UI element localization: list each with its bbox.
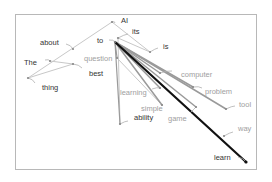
- label-computer: computer: [181, 70, 213, 79]
- label-learning: learning: [120, 88, 147, 97]
- label-The: The: [24, 58, 37, 67]
- node-thing[interactable]: [27, 77, 29, 79]
- label-way: way: [237, 124, 252, 133]
- label-its: its: [132, 27, 140, 36]
- node-learn[interactable]: [244, 160, 247, 163]
- word-graph: AIitsisabouttoquestionThebestthingcomput…: [0, 0, 272, 182]
- label-is: is: [163, 42, 169, 51]
- node-problem[interactable]: [192, 86, 194, 88]
- connector-problem: [193, 87, 202, 88]
- node-The[interactable]: [49, 60, 51, 62]
- connector-best: [73, 64, 82, 68]
- node-computer[interactable]: [159, 72, 161, 74]
- label-AI: AI: [121, 16, 128, 25]
- label-best: best: [89, 69, 104, 78]
- node-about[interactable]: [72, 48, 74, 50]
- edge-to-learn: [115, 42, 246, 162]
- node-ability[interactable]: [119, 123, 121, 125]
- node-learning[interactable]: [159, 87, 161, 89]
- connector-way: [224, 132, 233, 136]
- connector-is: [150, 48, 158, 52]
- node-question[interactable]: [116, 57, 118, 59]
- node-its[interactable]: [117, 37, 119, 39]
- label-tool: tool: [239, 100, 251, 109]
- label-simple: simple: [141, 104, 163, 113]
- connector-thing: [28, 78, 35, 83]
- label-learn: learn: [214, 153, 231, 162]
- label-to: to: [97, 36, 103, 45]
- connector-learning: [152, 88, 160, 89]
- connector-tool: [226, 106, 235, 109]
- node-tool[interactable]: [225, 108, 227, 110]
- label-about: about: [40, 38, 60, 47]
- node-best[interactable]: [72, 63, 74, 65]
- label-game: game: [168, 114, 187, 123]
- node-AI[interactable]: [111, 21, 113, 23]
- label-problem: problem: [205, 87, 232, 96]
- node-is[interactable]: [149, 51, 151, 53]
- label-ability: ability: [134, 113, 153, 122]
- connector-ability: [120, 121, 128, 124]
- label-question: question: [84, 54, 112, 63]
- node-to[interactable]: [114, 41, 116, 43]
- connector-its: [118, 34, 128, 38]
- label-thing: thing: [42, 83, 58, 92]
- graph-labels: AIitsisabouttoquestionThebestthingcomput…: [24, 16, 252, 162]
- edge-The-best: [50, 61, 73, 64]
- node-way[interactable]: [223, 135, 225, 137]
- node-game[interactable]: [195, 106, 197, 108]
